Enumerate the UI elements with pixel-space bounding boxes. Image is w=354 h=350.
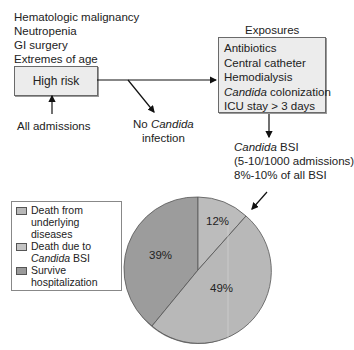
arrow-diagonal-icon [128, 80, 154, 112]
legend-swatch [16, 267, 27, 275]
slice-label-39: 39% [149, 249, 172, 261]
legend-item: Death from underlying diseases [16, 204, 119, 240]
slice-label-49: 49% [210, 282, 233, 294]
arrow-to-pie-icon [252, 192, 267, 209]
pie-chart: 12% 39% 49% [124, 197, 271, 344]
pie-legend: Death from underlying diseases Death due… [11, 201, 122, 291]
slice-label-12: 12% [206, 215, 229, 227]
legend-item: Death due to Candida BSI [16, 240, 119, 264]
legend-swatch [16, 243, 27, 251]
legend-item: Survive hospitalization [16, 264, 119, 288]
legend-swatch [16, 207, 27, 215]
